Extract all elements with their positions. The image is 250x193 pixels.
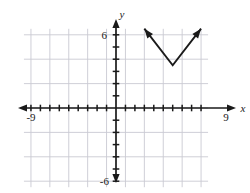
x-axis-label: x (240, 102, 246, 114)
graph-figure: y x -9 9 6 -6 (0, 0, 250, 193)
x-tick-label-9: 9 (223, 111, 229, 123)
coordinate-plane-svg: y x -9 9 6 -6 (0, 0, 250, 193)
y-axis-label: y (119, 8, 125, 20)
function-graph-v-shape (144, 29, 201, 66)
axes-group (18, 19, 236, 183)
y-axis-arrow-up-icon (112, 19, 119, 28)
y-tick-label-negative-6: -6 (100, 175, 110, 187)
x-tick-label-negative-9: -9 (26, 111, 36, 123)
v-shape-polyline (144, 29, 201, 66)
y-tick-label-6: 6 (102, 29, 108, 41)
